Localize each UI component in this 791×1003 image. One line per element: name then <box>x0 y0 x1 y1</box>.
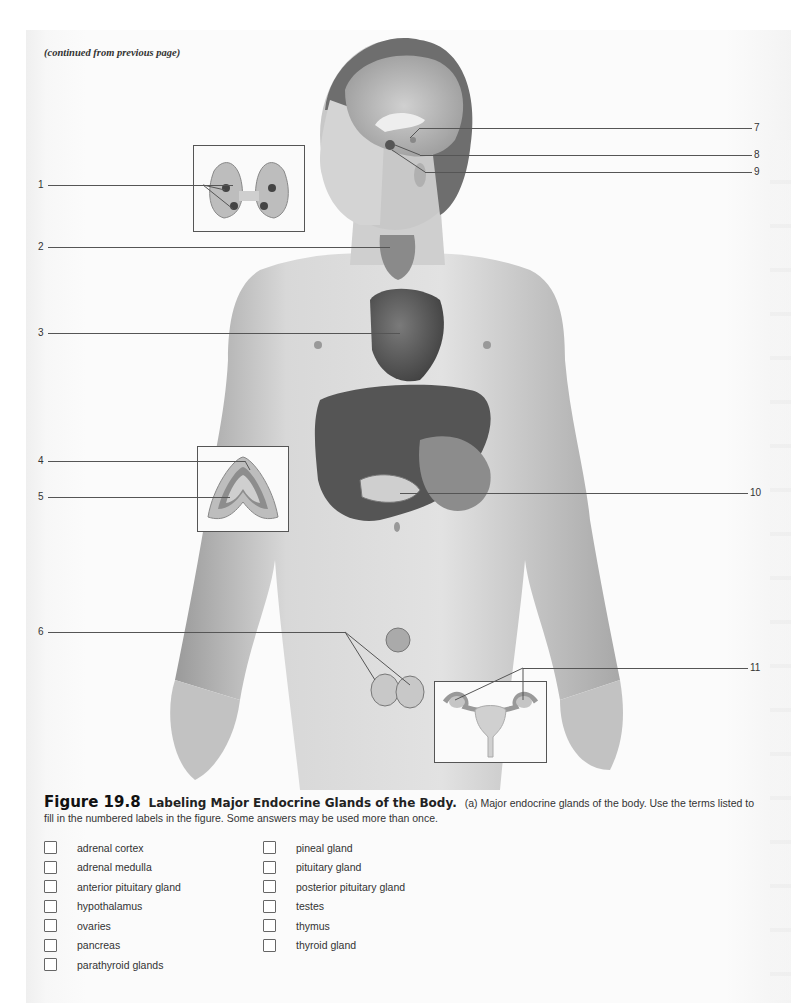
term-item: pineal gland <box>263 838 405 858</box>
checkbox[interactable] <box>44 958 57 971</box>
checkbox[interactable] <box>263 939 276 952</box>
term-item: posterior pituitary gland <box>263 877 405 897</box>
pineal <box>410 137 416 143</box>
thyroid-posterior-drawing <box>194 146 304 231</box>
term-item: anterior pituitary gland <box>44 877 181 897</box>
testis-left <box>371 674 399 706</box>
checkbox[interactable] <box>44 900 57 913</box>
checkbox[interactable] <box>44 919 57 932</box>
checkbox[interactable] <box>263 919 276 932</box>
term-item: adrenal medulla <box>44 858 181 878</box>
term-item: pituitary gland <box>263 858 405 878</box>
leader-line-2 <box>48 247 390 248</box>
term-label: ovaries <box>77 920 111 932</box>
checkbox[interactable] <box>44 841 57 854</box>
leader-line-1 <box>48 185 233 186</box>
term-label: testes <box>296 900 324 912</box>
endocrine-figure: 1 2 3 4 5 6 7 8 9 10 11 <box>0 0 791 790</box>
term-item: thyroid gland <box>263 936 405 956</box>
term-label: adrenal medulla <box>77 861 152 873</box>
term-label: pituitary gland <box>296 861 361 873</box>
leader-line-7 <box>420 128 752 129</box>
checkbox[interactable] <box>263 861 276 874</box>
leader-line-9 <box>425 172 752 173</box>
adrenal-drawing <box>198 447 288 531</box>
leader-line-8 <box>420 155 752 156</box>
term-item: pancreas <box>44 936 181 956</box>
thyroid-parathyroid-inset <box>193 145 305 232</box>
label-number-7: 7 <box>754 122 760 133</box>
checkbox[interactable] <box>44 880 57 893</box>
term-label: pineal gland <box>296 842 353 854</box>
term-label: pancreas <box>77 939 120 951</box>
testis-right <box>396 676 424 708</box>
label-number-6: 6 <box>38 626 44 637</box>
term-label: thymus <box>296 920 330 932</box>
checkbox[interactable] <box>44 861 57 874</box>
leader-line-11 <box>523 668 748 669</box>
leader-line-4 <box>48 461 245 462</box>
term-list-column-2: pineal gland pituitary gland posterior p… <box>263 838 405 955</box>
figure-title: Labeling Major Endocrine Glands of the B… <box>149 796 457 810</box>
term-label: adrenal cortex <box>77 842 144 854</box>
term-item: thymus <box>263 916 405 936</box>
label-number-5: 5 <box>38 491 44 502</box>
term-label: thyroid gland <box>296 939 356 951</box>
label-number-2: 2 <box>38 241 44 252</box>
pituitary <box>385 140 395 150</box>
checkbox[interactable] <box>263 900 276 913</box>
label-number-3: 3 <box>38 327 44 338</box>
checkbox[interactable] <box>44 939 57 952</box>
leader-line-6 <box>48 632 345 633</box>
term-item: hypothalamus <box>44 897 181 917</box>
term-item: ovaries <box>44 916 181 936</box>
term-label: anterior pituitary gland <box>77 881 181 893</box>
term-item: testes <box>263 897 405 917</box>
label-number-4: 4 <box>38 455 44 466</box>
female-reproductive-inset <box>434 681 547 763</box>
label-number-9: 9 <box>754 166 760 177</box>
leader-line-3 <box>48 333 400 334</box>
label-number-11: 11 <box>750 662 760 673</box>
leader-line-5 <box>48 497 230 498</box>
label-number-10: 10 <box>750 487 761 498</box>
figure-number: Figure 19.8 <box>44 793 141 811</box>
term-item: parathyroid glands <box>44 955 181 975</box>
term-item: adrenal cortex <box>44 838 181 858</box>
term-label: posterior pituitary gland <box>296 881 405 893</box>
checkbox[interactable] <box>263 841 276 854</box>
figure-caption: Figure 19.8Labeling Major Endocrine Glan… <box>44 795 764 826</box>
leader-line-10 <box>400 493 748 494</box>
label-number-1: 1 <box>38 179 44 190</box>
ovaries-uterus-drawing <box>435 682 546 762</box>
label-number-8: 8 <box>754 149 760 160</box>
body-illustration <box>0 0 791 790</box>
term-list-column-1: adrenal cortex adrenal medulla anterior … <box>44 838 181 975</box>
adrenal-gland-inset <box>197 446 289 532</box>
term-label: parathyroid glands <box>77 959 163 971</box>
checkbox[interactable] <box>263 880 276 893</box>
term-label: hypothalamus <box>77 900 142 912</box>
